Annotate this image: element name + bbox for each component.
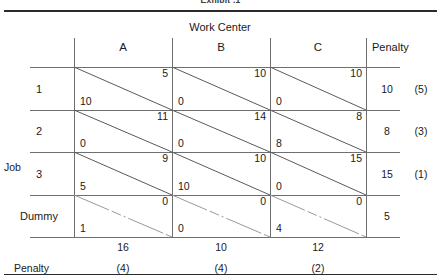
row-penalty-2: (3) <box>404 124 438 138</box>
tableau-cell-r3c2[interactable]: 1010 <box>172 152 270 195</box>
cell-diagonal-icon <box>270 110 366 152</box>
column-penalty-a: (4) <box>74 261 172 275</box>
column-header-a: A <box>74 40 172 55</box>
column-group-header: Work Center <box>74 20 366 34</box>
tableau-cell-r4c1[interactable]: 01 <box>74 195 172 237</box>
cell-allocation: 4 <box>276 222 282 235</box>
cell-allocation: 0 <box>178 222 184 235</box>
column-demand-a: 16 <box>74 240 172 254</box>
column-header-c: C <box>270 40 366 55</box>
cell-cost: 8 <box>356 110 362 123</box>
column-penalty-c: (2) <box>270 261 366 275</box>
cell-cost: 0 <box>162 195 168 208</box>
top-rule <box>4 10 437 12</box>
cell-allocation: 0 <box>80 137 86 150</box>
cell-diagonal-icon <box>74 152 172 195</box>
tableau-cell-r1c2[interactable]: 100 <box>172 67 270 110</box>
column-penalty-b: (4) <box>172 261 270 275</box>
row-supply-2: 8 <box>372 124 402 138</box>
cell-cost: 15 <box>350 152 362 165</box>
row-label-2: 2 <box>8 123 70 139</box>
figure-root: Exhibit .1 Work Center Penalty Job Penal… <box>0 0 441 280</box>
cell-allocation: 1 <box>80 222 86 235</box>
row-label-3: 3 <box>8 166 70 182</box>
cell-cost: 11 <box>157 110 168 123</box>
row-supply-1: 10 <box>372 82 402 96</box>
penalty-column-header: Penalty <box>372 40 438 55</box>
row-label-dummy: Dummy <box>8 208 70 224</box>
tableau-cell-r3c1[interactable]: 95 <box>74 152 172 195</box>
row-label-1: 1 <box>8 81 70 97</box>
tableau-cell-r2c2[interactable]: 140 <box>172 110 270 152</box>
bottom-penalty-label: Penalty <box>14 261 49 275</box>
tableau-cell-r2c1[interactable]: 110 <box>74 110 172 152</box>
cell-cost: 10 <box>254 152 266 165</box>
cell-allocation: 5 <box>80 180 86 193</box>
cell-allocation: 10 <box>178 180 190 193</box>
cell-cost: 0 <box>260 195 266 208</box>
cell-allocation: 0 <box>178 95 184 108</box>
cell-allocation: 0 <box>276 95 282 108</box>
cell-cost: 10 <box>350 67 362 80</box>
row-supply-3: 15 <box>372 167 402 181</box>
cell-cost: 10 <box>254 67 266 80</box>
cropped-figure-title: Exhibit .1 <box>0 0 441 5</box>
column-demand-c: 12 <box>270 240 366 254</box>
tableau-cell-r2c3[interactable]: 88 <box>270 110 366 152</box>
cell-diagonal-icon <box>270 195 366 237</box>
tableau-cell-r4c2[interactable]: 00 <box>172 195 270 237</box>
cell-diagonal-icon <box>172 195 270 237</box>
cell-cost: 9 <box>162 152 168 165</box>
cell-cost: 5 <box>162 67 168 80</box>
row-penalty-3: (1) <box>404 167 438 181</box>
cell-cost: 14 <box>254 110 266 123</box>
grid-vline-3 <box>366 38 367 237</box>
tableau-cell-r3c3[interactable]: 150 <box>270 152 366 195</box>
cell-cost: 0 <box>356 195 362 208</box>
column-header-b: B <box>172 40 270 55</box>
row-penalty-1: (5) <box>404 82 438 96</box>
bottom-rule <box>4 274 437 275</box>
cell-allocation: 10 <box>80 95 92 108</box>
tableau-cell-r4c3[interactable]: 04 <box>270 195 366 237</box>
grid-hline-4 <box>30 237 400 238</box>
cell-allocation: 0 <box>276 180 282 193</box>
cell-allocation: 8 <box>276 137 282 150</box>
cell-diagonal-icon <box>74 195 172 237</box>
column-demand-b: 10 <box>172 240 270 254</box>
cell-allocation: 0 <box>178 137 184 150</box>
tableau-cell-r1c1[interactable]: 510 <box>74 67 172 110</box>
row-supply-4: 5 <box>372 209 402 223</box>
tableau-cell-r1c3[interactable]: 100 <box>270 67 366 110</box>
